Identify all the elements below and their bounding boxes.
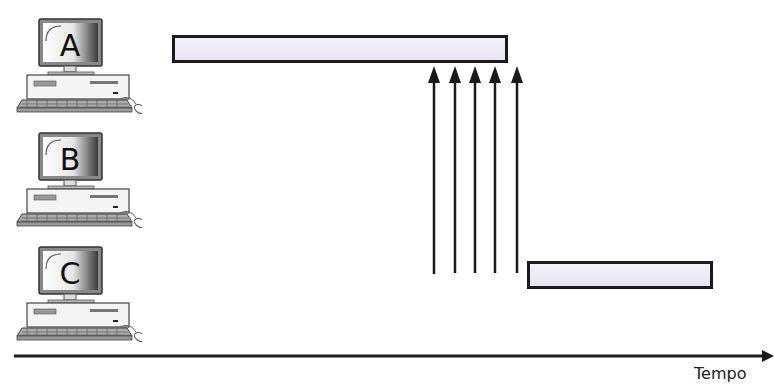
up-arrow-icon — [489, 66, 501, 273]
time-axis — [14, 350, 774, 362]
axis-arrowhead-icon — [762, 350, 774, 362]
up-arrow-icon — [469, 66, 481, 273]
up-arrow-icon — [428, 66, 440, 274]
time-axis-label: Tempo — [694, 364, 746, 383]
up-arrow-icon — [449, 66, 461, 273]
up-arrow-icon — [511, 66, 523, 273]
signal-arrows — [428, 66, 523, 274]
diagram-lines — [0, 0, 774, 384]
